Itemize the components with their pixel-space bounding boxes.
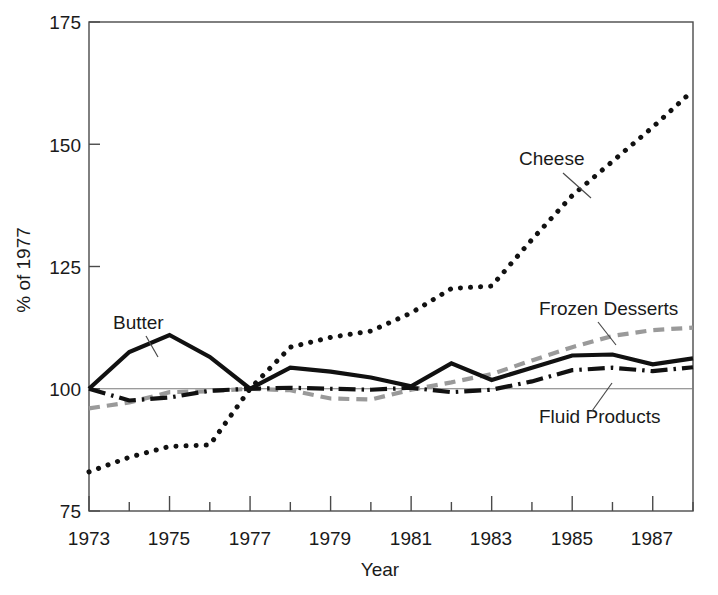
annotation-fluid-products: Fluid Products [539,406,660,427]
annotation-butter: Butter [113,312,164,333]
y-tick-label-75: 75 [60,501,81,522]
x-tick-label-1977: 1977 [229,528,271,549]
y-tick-label-125: 125 [49,257,81,278]
line-chart: 175 150 125 100 75 1973 1975 1977 1979 1… [0,0,718,595]
y-tick-label-100: 100 [49,379,81,400]
x-tick-label-1987: 1987 [631,528,673,549]
y-tick-label-175: 175 [49,12,81,33]
y-axis-title: % of 1977 [13,227,34,313]
x-tick-label-1975: 1975 [148,528,190,549]
y-tick-label-150: 150 [49,135,81,156]
x-tick-label-1985: 1985 [551,528,593,549]
x-tick-label-1973: 1973 [68,528,110,549]
x-tick-label-1983: 1983 [470,528,512,549]
chart-container: 175 150 125 100 75 1973 1975 1977 1979 1… [0,0,718,595]
annotation-cheese: Cheese [519,148,585,169]
x-axis-title: Year [361,559,400,580]
x-tick-label-1981: 1981 [390,528,432,549]
annotation-frozen-desserts: Frozen Desserts [539,298,678,319]
x-tick-label-1979: 1979 [309,528,351,549]
